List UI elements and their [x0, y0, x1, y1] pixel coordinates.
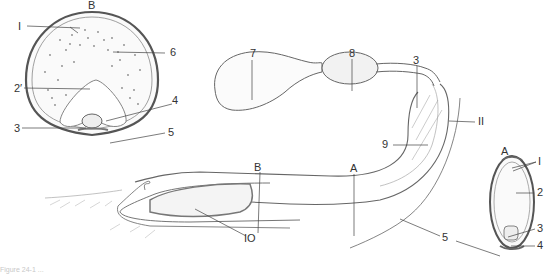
figure-caption: Figure 24-1 ... — [0, 266, 44, 273]
label-a-4: 4 — [537, 240, 543, 251]
label-b-5: 5 — [168, 127, 174, 138]
label-a-1: I — [538, 156, 541, 167]
label-b-3: 3 — [14, 123, 20, 134]
label-a-3: 3 — [537, 223, 543, 234]
cross-section-a — [490, 156, 534, 249]
label-b-line: B — [254, 162, 261, 173]
anatomical-diagram: B I 6 2′ 4 3 5 7 8 3 II 9 A B IO 5 A I 2… — [0, 0, 554, 275]
label-10: IO — [244, 233, 256, 244]
label-8: 8 — [349, 48, 355, 59]
label-b-4: 4 — [172, 95, 178, 106]
label-b-6: 6 — [170, 47, 176, 58]
label-3: 3 — [413, 55, 419, 66]
label-a-section-title: A — [501, 146, 508, 157]
cross-section-b — [26, 12, 158, 135]
label-a-2: 2 — [537, 187, 543, 198]
label-7: 7 — [250, 48, 256, 59]
label-a-line: A — [350, 163, 357, 174]
label-9: 9 — [382, 139, 388, 150]
label-b-section-title: B — [88, 0, 95, 11]
label-11: II — [478, 116, 484, 127]
diagram-drawing — [0, 0, 554, 275]
label-5: 5 — [442, 232, 448, 243]
label-b-2prime: 2′ — [14, 83, 22, 94]
label-b-1: I — [18, 21, 21, 32]
